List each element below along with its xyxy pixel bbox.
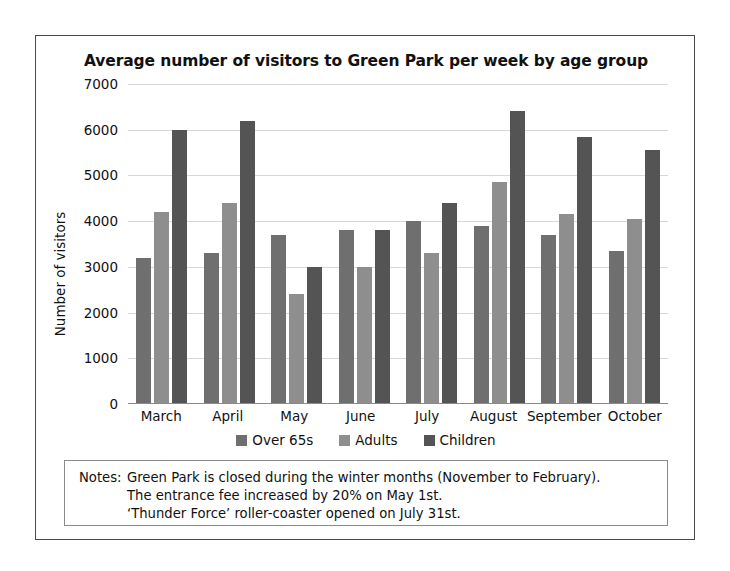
bar (609, 251, 624, 404)
bar-group (128, 84, 196, 404)
legend-item: Children (424, 432, 496, 448)
x-axis-tick-label: May (261, 408, 327, 424)
bar (559, 214, 574, 404)
note-row: Notes: Green Park is closed during the w… (79, 469, 667, 487)
legend-label: Adults (355, 432, 397, 448)
y-axis-title: Number of visitors (50, 184, 70, 364)
notes-label-spacer (79, 487, 127, 505)
notes-label: Notes: (79, 469, 127, 487)
bar (406, 221, 421, 404)
bar-group (601, 84, 669, 404)
bar-group (196, 84, 264, 404)
bar (424, 253, 439, 404)
bar (375, 230, 390, 404)
chart-legend: Over 65sAdultsChildren (36, 432, 696, 448)
x-axis-tick-label: June (327, 408, 393, 424)
bar (442, 203, 457, 404)
bar (357, 267, 372, 404)
chart-page: Average number of visitors to Green Park… (0, 0, 730, 571)
bar-group (263, 84, 331, 404)
notes-box: Notes: Green Park is closed during the w… (64, 460, 668, 526)
note-text: ‘Thunder Force’ roller-coaster opened on… (127, 505, 667, 523)
y-axis-tick-label: 2000 (84, 305, 118, 321)
plot-area (128, 84, 668, 404)
chart-title: Average number of visitors to Green Park… (36, 52, 696, 70)
bar (204, 253, 219, 404)
plot-block: Number of visitors 010002000300040005000… (36, 84, 696, 454)
x-axis-tick-label: March (128, 408, 194, 424)
x-axis-tick-label: October (602, 408, 668, 424)
bar-groups (128, 84, 668, 404)
y-axis-title-text: Number of visitors (52, 212, 68, 337)
bar-group (398, 84, 466, 404)
bar (645, 150, 660, 404)
bar-group (331, 84, 399, 404)
legend-swatch-icon (236, 435, 247, 446)
x-axis-tick-label: August (460, 408, 526, 424)
x-axis-tick-label: September (527, 408, 602, 424)
legend-swatch-icon (424, 435, 435, 446)
chart-frame: Average number of visitors to Green Park… (35, 35, 695, 540)
bar (627, 219, 642, 404)
legend-label: Over 65s (252, 432, 313, 448)
x-axis-tick-label: July (394, 408, 460, 424)
notes-label-spacer (79, 505, 127, 523)
note-row: The entrance fee increased by 20% on May… (79, 487, 667, 505)
bar (492, 182, 507, 404)
bar (339, 230, 354, 404)
bar (240, 121, 255, 404)
y-axis-tick-label: 1000 (84, 350, 118, 366)
bar (222, 203, 237, 404)
y-axis-tick-label: 6000 (84, 122, 118, 138)
note-row: ‘Thunder Force’ roller-coaster opened on… (79, 505, 667, 523)
y-axis-tick-label: 7000 (84, 76, 118, 92)
note-text: Green Park is closed during the winter m… (127, 469, 667, 487)
bar-group (533, 84, 601, 404)
bar (154, 212, 169, 404)
bar-group (466, 84, 534, 404)
bar (307, 267, 322, 404)
bar (172, 130, 187, 404)
legend-swatch-icon (339, 435, 350, 446)
y-axis-tick-label: 3000 (84, 259, 118, 275)
y-axis-tick-label: 0 (109, 396, 118, 412)
y-axis-tick-label: 5000 (84, 167, 118, 183)
bar (510, 111, 525, 404)
legend-label: Children (440, 432, 496, 448)
y-axis-ticks: 01000200030004000500060007000 (70, 84, 124, 404)
bar (474, 226, 489, 404)
y-axis-tick-label: 4000 (84, 213, 118, 229)
x-axis-ticks: MarchAprilMayJuneJulyAugustSeptemberOcto… (128, 408, 668, 424)
bar (271, 235, 286, 404)
legend-item: Adults (339, 432, 397, 448)
bar (541, 235, 556, 404)
bar (136, 258, 151, 404)
legend-item: Over 65s (236, 432, 313, 448)
note-text: The entrance fee increased by 20% on May… (127, 487, 667, 505)
x-axis-line (128, 403, 668, 404)
bar (577, 137, 592, 404)
bar (289, 294, 304, 404)
x-axis-tick-label: April (194, 408, 260, 424)
